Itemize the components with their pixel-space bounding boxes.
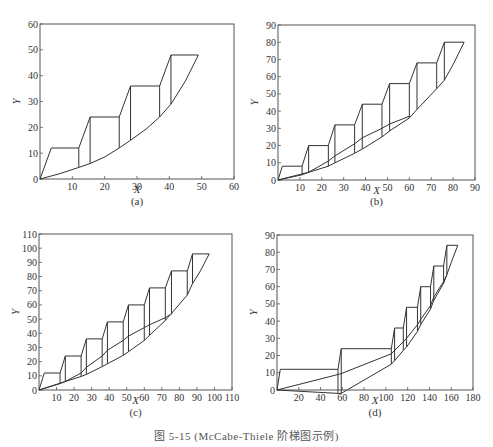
x-tick-label: 40: [361, 182, 371, 193]
x-tick-label: 50: [382, 182, 392, 193]
x-tick-label: 50: [197, 181, 207, 192]
y-tick-label: 70: [27, 285, 37, 296]
panel-label: (b): [370, 195, 383, 208]
y-tick-label: 20: [28, 122, 38, 133]
figure-caption: 图 5-15 (McCabe-Thiele 阶梯图示例): [0, 427, 493, 443]
x-tick-label: 90: [192, 392, 202, 403]
series-middle-curve: [39, 313, 172, 390]
x-axis-label: X: [131, 394, 140, 406]
series-staircase: [278, 42, 464, 180]
chart-a: 0102030405060102030405060XY(a): [10, 19, 239, 209]
x-tick-label: 60: [139, 392, 149, 403]
y-tick-label: 40: [28, 70, 38, 81]
series-middle-curve: [277, 275, 447, 390]
x-tick-label: 80: [174, 392, 184, 403]
y-tick-label: 100: [22, 243, 37, 254]
y-tick-label: 90: [265, 230, 275, 241]
x-tick-label: 60: [229, 181, 239, 192]
plot-frame: [277, 235, 473, 390]
y-tick-label: 60: [27, 299, 37, 310]
x-tick-label: 50: [122, 392, 132, 403]
y-tick-label: 40: [266, 106, 276, 117]
y-tick-label: 50: [27, 314, 37, 325]
x-tick-label: 90: [470, 182, 480, 193]
plot-frame: [278, 25, 475, 180]
x-tick-label: 180: [466, 392, 481, 403]
plot-frame: [39, 234, 232, 390]
x-tick-label: 70: [157, 392, 167, 403]
x-tick-label: 110: [225, 392, 240, 403]
figure: 0102030405060102030405060XY(a) 010203040…: [0, 0, 493, 447]
y-tick-label: 40: [27, 328, 37, 339]
x-tick-label: 160: [444, 392, 459, 403]
y-tick-label: 80: [27, 271, 37, 282]
x-tick-label: 20: [294, 392, 304, 403]
y-tick-label: 90: [266, 20, 276, 31]
series-lower-curve: [39, 254, 209, 390]
y-axis-label: Y: [10, 97, 22, 105]
y-tick-label: 60: [28, 19, 38, 30]
x-tick-label: 140: [422, 392, 437, 403]
y-tick-label: 20: [266, 140, 276, 151]
y-axis-label: Y: [247, 308, 259, 316]
y-tick-label: 80: [265, 247, 275, 258]
y-tick-label: 60: [265, 281, 275, 292]
y-tick-label: 30: [265, 333, 275, 344]
y-tick-label: 110: [22, 229, 37, 240]
y-tick-label: 10: [28, 148, 38, 159]
chart-d: 0102030405060708090204060801001201401601…: [247, 230, 481, 420]
x-tick-label: 100: [207, 392, 222, 403]
y-tick-label: 30: [27, 342, 37, 353]
x-tick-label: 80: [448, 182, 458, 193]
y-tick-label: 30: [28, 96, 38, 107]
x-tick-label: 40: [316, 392, 326, 403]
panel-label: (a): [131, 195, 144, 208]
x-tick-label: 20: [69, 392, 79, 403]
x-tick-label: 20: [100, 181, 110, 192]
x-tick-label: 80: [359, 392, 369, 403]
y-axis-label: Y: [9, 307, 21, 315]
y-tick-label: 60: [266, 71, 276, 82]
x-axis-label: X: [371, 394, 380, 406]
x-tick-label: 70: [426, 182, 436, 193]
panel-label: (c): [129, 406, 142, 419]
y-tick-label: 10: [265, 367, 275, 378]
panel-label: (d): [369, 406, 382, 419]
x-tick-label: 100: [378, 392, 393, 403]
y-tick-label: 50: [266, 88, 276, 99]
x-tick-label: 60: [404, 182, 414, 193]
x-tick-label: 20: [317, 182, 327, 193]
x-tick-label: 30: [339, 182, 349, 193]
y-tick-label: 0: [33, 174, 38, 185]
x-tick-label: 40: [164, 181, 174, 192]
series-lower-curve: [277, 245, 458, 393]
plot-frame: [40, 24, 234, 179]
y-tick-label: 20: [265, 350, 275, 361]
y-tick-label: 0: [270, 385, 275, 396]
y-tick-label: 70: [266, 54, 276, 65]
y-axis-label: Y: [248, 98, 260, 106]
x-tick-label: 40: [104, 392, 114, 403]
x-tick-label: 10: [52, 392, 62, 403]
y-tick-label: 70: [265, 264, 275, 275]
y-tick-label: 0: [271, 175, 276, 186]
series-staircase: [277, 245, 458, 390]
y-tick-label: 30: [266, 123, 276, 134]
x-tick-label: 120: [400, 392, 415, 403]
chart-b: 0102030405060708090102030405060708090XY(…: [248, 20, 480, 209]
y-tick-label: 10: [27, 370, 37, 381]
y-tick-label: 80: [266, 37, 276, 48]
y-tick-label: 10: [266, 157, 276, 168]
y-tick-label: 0: [32, 385, 37, 396]
y-tick-label: 50: [28, 44, 38, 55]
y-tick-label: 50: [265, 298, 275, 309]
x-tick-label: 10: [295, 182, 305, 193]
y-tick-label: 20: [27, 356, 37, 367]
x-axis-label: X: [133, 183, 142, 195]
x-tick-label: 30: [87, 392, 97, 403]
y-tick-label: 90: [27, 257, 37, 268]
series-staircase: [39, 254, 209, 390]
x-tick-label: 10: [67, 181, 77, 192]
y-tick-label: 40: [265, 316, 275, 327]
chart-c: 0102030405060708090100110102030405060708…: [9, 229, 239, 420]
